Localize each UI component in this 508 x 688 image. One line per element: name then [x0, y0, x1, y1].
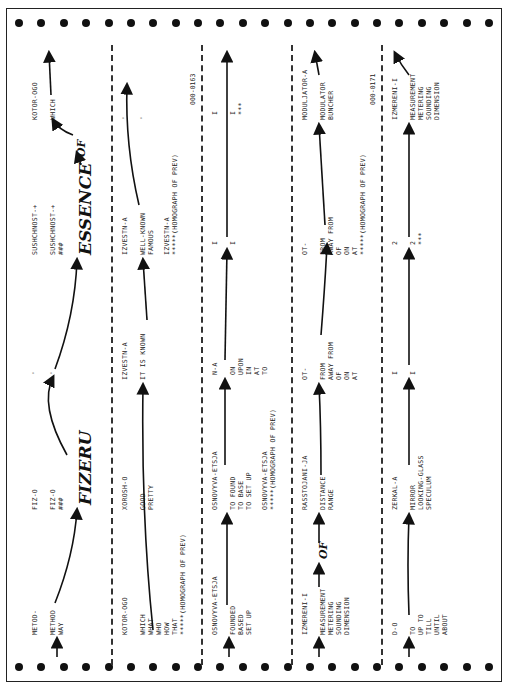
printout-page: METOD-METHOD WAY FIZ-OFIZ-O ### '' SUSHC… — [6, 8, 502, 682]
rotated-content: METOD-METHOD WAY FIZ-OFIZ-O ### '' SUSHC… — [29, 45, 469, 665]
handdrawn-arrows — [29, 45, 469, 665]
sprocket-holes-top — [7, 17, 501, 29]
